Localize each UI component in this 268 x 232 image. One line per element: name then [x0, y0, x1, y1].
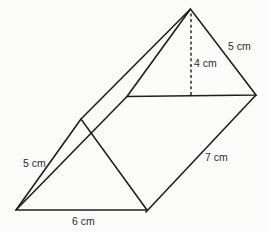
prism-svg: 5 cm 4 cm 7 cm 5 cm 6 cm [0, 0, 268, 232]
apex-connector-edge [81, 9, 191, 119]
label-prism-length: 7 cm [205, 151, 228, 163]
label-triangle-height: 4 cm [194, 57, 217, 69]
label-front-slant: 5 cm [23, 157, 46, 169]
label-base: 6 cm [72, 215, 95, 227]
label-top-slant: 5 cm [228, 40, 251, 52]
right-connector-edge-7cm [146, 95, 257, 213]
prism-diagram: 5 cm 4 cm 7 cm 5 cm 6 cm [0, 0, 268, 232]
left-connector-edge [16, 97, 127, 211]
